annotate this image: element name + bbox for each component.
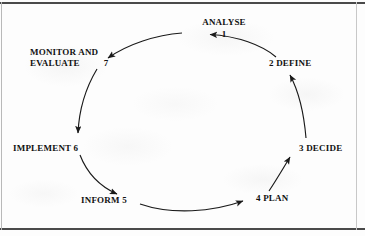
node-decide: 3 DECIDE (299, 143, 342, 154)
node-inform: INFORM 5 (81, 195, 127, 206)
arrow-analyse-to-monitor (108, 33, 182, 58)
node-define-label: DEFINE (276, 58, 311, 68)
diagram-canvas: ANALYSE 1 2 DEFINE 3 DECIDE 4 PLAN INFOR… (0, 0, 365, 236)
node-implement-label: IMPLEMENT (13, 143, 71, 153)
node-implement: IMPLEMENT 6 (13, 143, 78, 154)
node-inform-number: 5 (122, 195, 127, 205)
node-analyse-number: 1 (192, 29, 256, 40)
arrow-inform-to-plan (140, 201, 243, 211)
node-plan: 4 PLAN (256, 193, 288, 204)
node-analyse: ANALYSE 1 (192, 17, 256, 40)
arrow-implement-to-inform (80, 155, 117, 194)
arrow-monitor-to-implement (78, 69, 97, 133)
arrow-decide-to-define (290, 75, 306, 138)
node-monitor-label-line1: MONITOR AND (30, 47, 98, 57)
node-define-number: 2 (269, 58, 274, 68)
node-inform-label: INFORM (81, 195, 120, 205)
node-decide-number: 3 (299, 143, 304, 153)
node-monitor-number: 7 (104, 58, 109, 69)
node-implement-number: 6 (74, 143, 79, 153)
node-analyse-label: ANALYSE (202, 17, 246, 27)
node-plan-label: PLAN (263, 193, 288, 203)
node-monitor-label-line2: EVALUATE (30, 58, 80, 68)
node-monitor-line2-wrap: EVALUATE7 (30, 58, 109, 69)
node-monitor: MONITOR AND EVALUATE7 (30, 47, 109, 69)
node-define: 2 DEFINE (269, 58, 311, 69)
node-decide-label: DECIDE (306, 143, 342, 153)
cycle-arrow-layer (0, 0, 365, 236)
arrow-plan-to-decide (269, 157, 290, 191)
node-plan-number: 4 (256, 193, 261, 203)
